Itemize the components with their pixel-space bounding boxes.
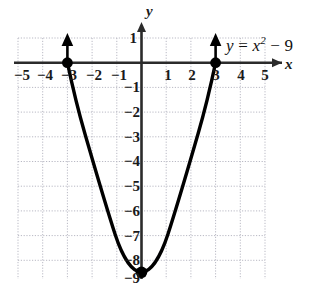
- x-axis-name: x: [285, 57, 293, 72]
- y-tick-label--9: −9: [124, 271, 140, 286]
- equation-minus: −: [270, 36, 280, 55]
- x-tick-label--5: −5: [14, 68, 30, 83]
- x-axis: [14, 58, 282, 67]
- x-tick-label-5: 5: [261, 68, 269, 83]
- y-tick-label--2: −2: [124, 105, 140, 120]
- y-tick-label--8: −8: [124, 253, 140, 268]
- x-tick-label-2: 2: [188, 68, 196, 83]
- y-tick-label--5: −5: [124, 179, 140, 194]
- y-tick-label--7: −7: [124, 229, 140, 244]
- equation-constant: 9: [285, 36, 294, 55]
- y-tick-label--3: −3: [124, 130, 140, 145]
- x-tick-label-4: 4: [237, 68, 245, 83]
- equation-equals: =: [238, 36, 248, 55]
- y-tick-label--1: −1: [124, 80, 140, 95]
- x-tick-label-1: 1: [164, 68, 172, 83]
- x-tick-label--2: −2: [86, 68, 102, 83]
- equation-exponent: 2: [260, 34, 266, 46]
- y-tick-label--6: −6: [124, 204, 140, 219]
- x-tick-label--4: −4: [37, 68, 53, 83]
- x-tick-label--3: −3: [61, 68, 77, 83]
- y-axis-name: y: [146, 4, 153, 19]
- x-tick-label-3: 3: [212, 68, 220, 83]
- equation-label: y = x2 − 9: [226, 35, 293, 54]
- y-tick-label--4: −4: [124, 154, 140, 169]
- equation-lhs: y: [226, 36, 234, 55]
- y-tick-label-1: 1: [130, 31, 138, 46]
